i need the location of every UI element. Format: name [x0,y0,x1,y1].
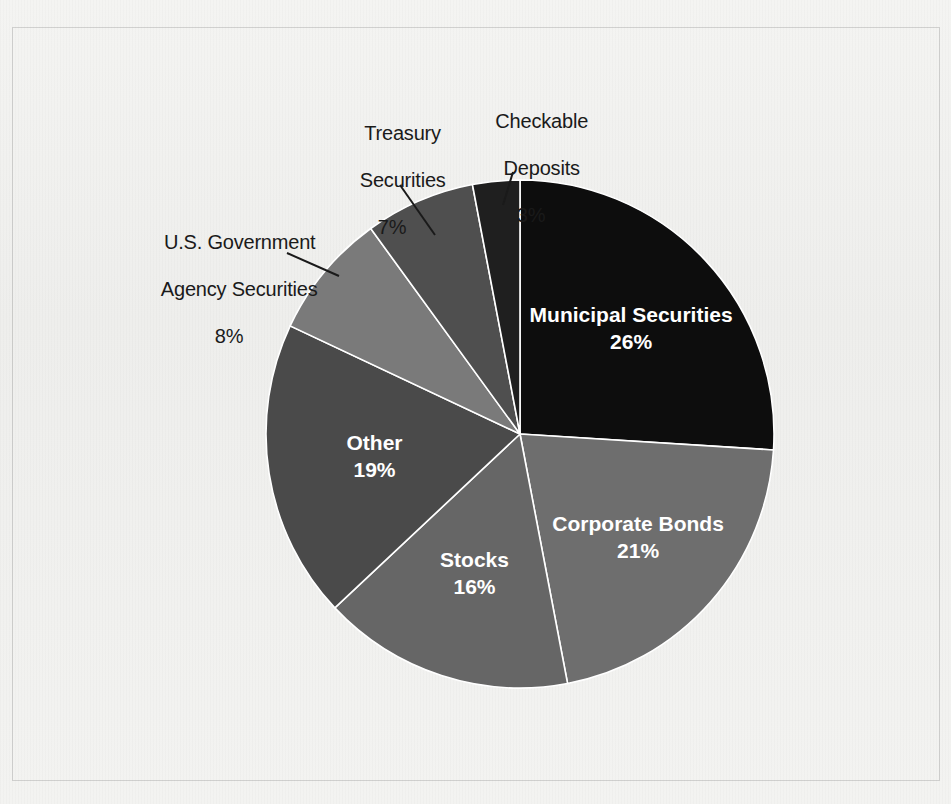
slice-pct-municipal-securities: 26% [610,330,652,353]
label-checkable-deposits-line1: Checkable [495,110,588,132]
slice-label-stocks: Stocks [440,548,509,571]
slice-pct-stocks: 16% [453,575,495,598]
label-treasury-securities-pct: 7% [329,216,455,240]
label-us-gov-agency-pct: 8% [131,325,327,349]
label-treasury-securities: Treasury Securities 7% [329,98,455,287]
label-checkable-deposits: Checkable Deposits 3% [466,86,596,275]
label-us-gov-agency-line1: U.S. Government [164,231,316,253]
pie-chart: Municipal Securities26%Corporate Bonds21… [0,0,951,804]
label-treasury-securities-line2: Securities [360,169,446,191]
label-us-gov-agency-line2: Agency Securities [161,278,318,300]
label-checkable-deposits-line2: Deposits [504,157,580,179]
label-checkable-deposits-pct: 3% [466,204,596,228]
label-us-government-agency-securities: U.S. Government Agency Securities 8% [131,207,327,396]
slice-pct-other: 19% [353,458,395,481]
slice-label-municipal-securities: Municipal Securities [530,303,733,326]
label-treasury-securities-line1: Treasury [364,122,441,144]
slice-label-other: Other [346,431,402,454]
slice-label-corporate-bonds: Corporate Bonds [552,512,724,535]
slice-pct-corporate-bonds: 21% [617,539,659,562]
